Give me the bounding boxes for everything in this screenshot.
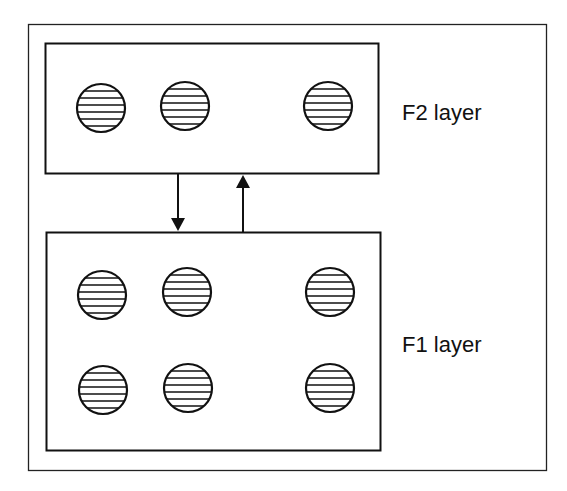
f1-node <box>304 364 356 412</box>
diagram-canvas: F2 layer F1 layer <box>0 0 567 491</box>
f2-node <box>159 82 211 130</box>
f1-layer-label: F1 layer <box>402 332 481 357</box>
f1-layer-box <box>47 233 381 451</box>
bottom-up-arrow <box>236 175 250 232</box>
f1-node <box>304 268 356 316</box>
top-down-arrow <box>171 173 185 231</box>
f1-layer <box>47 233 381 451</box>
f1-node <box>76 271 128 319</box>
f1-node <box>161 268 213 316</box>
f2-node <box>75 84 127 132</box>
f2-layer-label: F2 layer <box>402 100 481 125</box>
f1-node <box>77 366 129 414</box>
f2-layer <box>46 44 379 174</box>
f2-node <box>302 82 354 130</box>
f2-layer-box <box>46 44 379 174</box>
f1-node <box>162 364 214 412</box>
